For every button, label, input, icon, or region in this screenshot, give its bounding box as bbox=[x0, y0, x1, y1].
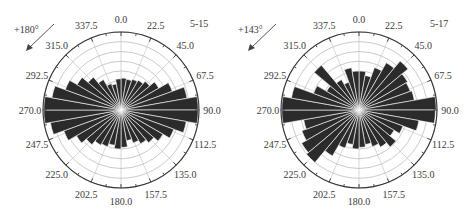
rose-chart-5-17: 0.022.545.067.590.0112.5135.0157.5180.02… bbox=[238, 14, 459, 207]
angle-tick-label: 337.5 bbox=[75, 20, 98, 31]
panel-label: 5-17 bbox=[430, 18, 448, 29]
angle-tick-label: 202.5 bbox=[75, 189, 98, 200]
angle-tick-label: 337.5 bbox=[313, 20, 336, 31]
rose-bars bbox=[282, 61, 436, 163]
angle-tick-label: 180.0 bbox=[110, 196, 133, 207]
angle-tick-label: 225.0 bbox=[45, 169, 68, 180]
angle-tick-label: 90.0 bbox=[441, 105, 459, 116]
angle-tick-label: 45.0 bbox=[177, 40, 195, 51]
angle-tick-label: 0.0 bbox=[115, 14, 128, 25]
angle-tick-label: 270.0 bbox=[257, 105, 280, 116]
angle-tick-label: 157.5 bbox=[383, 189, 406, 200]
angle-tick-label: 22.5 bbox=[147, 20, 165, 31]
rotation-annotation: +180° bbox=[14, 24, 39, 35]
angle-tick-label: 292.5 bbox=[264, 70, 287, 81]
angle-tick-label: 270.0 bbox=[19, 105, 42, 116]
panel-label: 5-15 bbox=[190, 18, 208, 29]
angle-tick-label: 315.0 bbox=[45, 40, 68, 51]
angle-tick-label: 247.5 bbox=[264, 139, 287, 150]
angle-tick-label: 112.5 bbox=[432, 139, 454, 150]
angle-tick-label: 90.0 bbox=[203, 105, 221, 116]
rotation-annotation: +143° bbox=[238, 24, 263, 35]
angle-tick-label: 135.0 bbox=[174, 169, 197, 180]
angle-tick-label: 45.0 bbox=[415, 40, 433, 51]
angle-tick-label: 112.5 bbox=[194, 139, 216, 150]
rose-chart-5-15: 0.022.545.067.590.0112.5135.0157.5180.02… bbox=[14, 14, 221, 207]
rose-diagram-figure: 0.022.545.067.590.0112.5135.0157.5180.02… bbox=[0, 0, 473, 217]
angle-tick-label: 22.5 bbox=[385, 20, 403, 31]
angle-tick-label: 315.0 bbox=[283, 40, 306, 51]
angle-tick-label: 225.0 bbox=[283, 169, 306, 180]
angle-tick-label: 135.0 bbox=[412, 169, 435, 180]
angle-tick-label: 67.5 bbox=[196, 70, 214, 81]
angle-tick-label: 0.0 bbox=[353, 14, 366, 25]
angle-tick-label: 292.5 bbox=[26, 70, 49, 81]
angle-tick-label: 180.0 bbox=[348, 196, 371, 207]
angle-tick-label: 247.5 bbox=[26, 139, 49, 150]
angle-tick-label: 67.5 bbox=[434, 70, 452, 81]
angle-tick-label: 202.5 bbox=[313, 189, 336, 200]
angle-tick-label: 157.5 bbox=[145, 189, 168, 200]
